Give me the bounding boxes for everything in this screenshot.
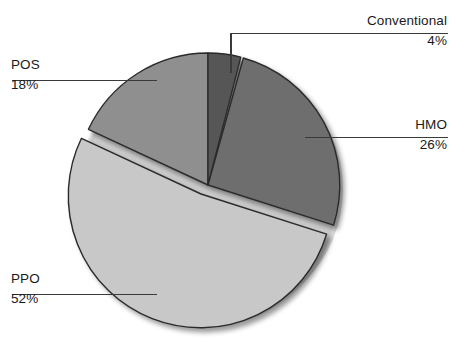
slice-label-hmo-value: 26% <box>362 134 448 152</box>
slice-label-pos-value: 18% <box>10 74 102 92</box>
slice-label-conventional-name: Conventional <box>330 14 448 30</box>
slice-label-pos: POS 18% <box>10 58 102 91</box>
slice-label-ppo: PPO 52% <box>10 272 102 305</box>
pie-chart: Conventional 4% HMO 26% POS 18% PPO 52% <box>0 0 452 342</box>
slice-label-ppo-name: PPO <box>10 272 102 288</box>
slice-label-pos-name: POS <box>10 58 102 74</box>
slice-label-conventional-value: 4% <box>330 30 448 48</box>
slice-label-ppo-value: 52% <box>10 288 102 306</box>
slice-label-hmo-name: HMO <box>362 118 448 134</box>
slice-label-conventional: Conventional 4% <box>330 14 448 47</box>
slice-label-hmo: HMO 26% <box>362 118 448 151</box>
